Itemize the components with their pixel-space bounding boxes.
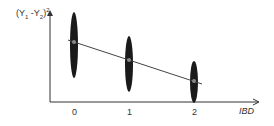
mean-point-1 [127,58,131,62]
tick-2: 2 [192,107,197,117]
y-axis-label: (Y1 -Y2)2 [16,7,50,20]
x-axis-label: IBD [239,106,254,116]
mean-point-0 [72,40,76,44]
tick-0: 0 [72,107,77,117]
regression-line [68,40,202,84]
tick-1: 1 [127,107,132,117]
mean-point-2 [192,79,196,83]
distribution-ibd-1 [125,36,133,92]
distribution-ibd-0 [70,12,78,78]
